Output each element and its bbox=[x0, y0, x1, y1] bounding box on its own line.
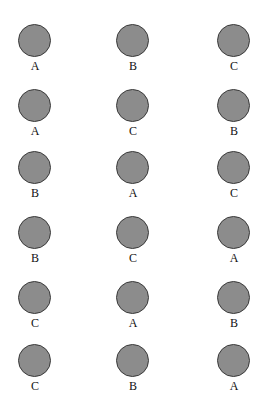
circle-icon bbox=[18, 24, 51, 57]
circle-label: A bbox=[15, 59, 55, 73]
circle-label: A bbox=[214, 379, 254, 393]
circle-label: B bbox=[15, 251, 55, 265]
circle-icon bbox=[18, 344, 51, 377]
circle-label: C bbox=[15, 379, 55, 393]
circle-icon bbox=[217, 89, 250, 122]
circle-icon bbox=[116, 89, 149, 122]
grid-cell: A bbox=[214, 344, 254, 400]
grid-cell: B bbox=[214, 281, 254, 337]
grid-cell: C bbox=[15, 281, 55, 337]
grid-cell: B bbox=[15, 151, 55, 207]
grid-cell: C bbox=[15, 344, 55, 400]
circle-label: B bbox=[113, 379, 153, 393]
grid-cell: A bbox=[113, 281, 153, 337]
circle-icon bbox=[116, 281, 149, 314]
circle-icon bbox=[18, 89, 51, 122]
circle-icon bbox=[116, 151, 149, 184]
circle-icon bbox=[217, 281, 250, 314]
circle-icon bbox=[116, 216, 149, 249]
circle-label: C bbox=[214, 186, 254, 200]
grid-cell: B bbox=[214, 89, 254, 145]
grid-cell: A bbox=[113, 151, 153, 207]
circle-label: B bbox=[214, 316, 254, 330]
grid-cell: C bbox=[113, 89, 153, 145]
circle-label: C bbox=[113, 251, 153, 265]
circle-icon bbox=[217, 151, 250, 184]
circle-label: C bbox=[15, 316, 55, 330]
circle-icon bbox=[18, 281, 51, 314]
circle-icon bbox=[217, 24, 250, 57]
grid-cell: B bbox=[113, 344, 153, 400]
circle-icon bbox=[18, 216, 51, 249]
circle-icon bbox=[116, 344, 149, 377]
grid-cell: C bbox=[113, 216, 153, 272]
grid-cell: A bbox=[214, 216, 254, 272]
circle-icon bbox=[18, 151, 51, 184]
circle-label: B bbox=[214, 124, 254, 138]
circle-label: C bbox=[214, 59, 254, 73]
circle-label: A bbox=[113, 186, 153, 200]
grid-cell: C bbox=[214, 151, 254, 207]
grid-cell: A bbox=[15, 89, 55, 145]
circle-label: B bbox=[15, 186, 55, 200]
grid-cell: C bbox=[214, 24, 254, 80]
circle-label: B bbox=[113, 59, 153, 73]
circle-icon bbox=[217, 344, 250, 377]
circle-label: C bbox=[113, 124, 153, 138]
circle-icon bbox=[116, 24, 149, 57]
grid-cell: B bbox=[113, 24, 153, 80]
circle-label: A bbox=[113, 316, 153, 330]
circle-label: A bbox=[214, 251, 254, 265]
grid-cell: A bbox=[15, 24, 55, 80]
grid-cell: B bbox=[15, 216, 55, 272]
circle-label: A bbox=[15, 124, 55, 138]
circle-icon bbox=[217, 216, 250, 249]
